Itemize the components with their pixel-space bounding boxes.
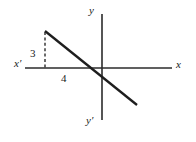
x-negative-axis-label: x′ xyxy=(13,57,22,69)
run-value-label: 4 xyxy=(61,72,67,84)
rise-value-label: 3 xyxy=(30,47,36,59)
y-positive-axis-label: y xyxy=(88,4,94,16)
figure-canvas: x′ x y y′ 3 4 xyxy=(0,0,196,142)
y-negative-axis-label: y′ xyxy=(85,114,94,126)
coordinate-plane-figure: x′ x y y′ 3 4 xyxy=(0,0,196,142)
x-positive-axis-label: x xyxy=(175,58,181,70)
